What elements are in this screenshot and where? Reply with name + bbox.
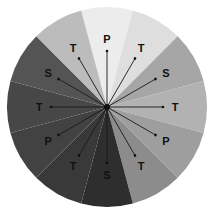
sector-label: T <box>70 42 77 54</box>
sector-label: T <box>70 160 77 172</box>
sector-label: P <box>103 33 110 45</box>
sector-label: T <box>138 160 145 172</box>
sector-label: T <box>172 101 179 113</box>
sector-wheel-diagram: PTSTPTSTPTST <box>0 0 213 213</box>
sector-label: S <box>103 169 110 181</box>
sector-label: P <box>162 135 169 147</box>
sector-label: T <box>36 101 43 113</box>
sector-label: S <box>44 67 51 79</box>
center-hub <box>104 104 110 110</box>
sector-label: S <box>162 67 169 79</box>
sector-label: P <box>44 135 51 147</box>
sector-label: T <box>138 42 145 54</box>
